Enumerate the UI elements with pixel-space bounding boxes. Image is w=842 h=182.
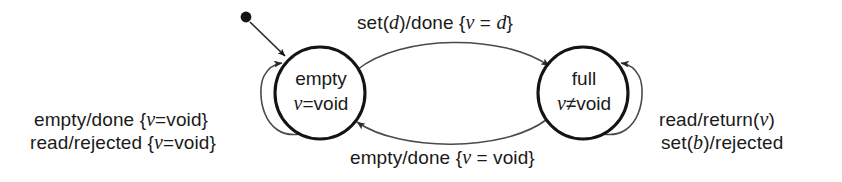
state-label-empty-condition: v=void bbox=[275, 92, 367, 115]
state-empty-cond-rest: =void bbox=[302, 93, 348, 114]
state-label-full-condition: v≠void bbox=[538, 92, 630, 115]
transition-label-empty-self-loop-1: empty/done {v=void} bbox=[34, 108, 208, 131]
transition-label-empty-to-full: set(d)/done {v = d} bbox=[357, 11, 513, 34]
state-machine-diagram: empty v=void full v≠void set(d)/done {v … bbox=[0, 0, 842, 182]
state-label-empty-name: empty bbox=[275, 68, 367, 90]
transition-full-to-empty bbox=[357, 120, 546, 144]
state-label-full-name: full bbox=[538, 68, 630, 90]
initial-transition-arrow bbox=[250, 22, 285, 56]
transition-empty-to-full bbox=[357, 42, 549, 70]
transition-label-full-self-loop-2: set(b)/rejected bbox=[661, 131, 783, 154]
transition-label-empty-self-loop-2: read/rejected {v=void} bbox=[30, 131, 216, 154]
transition-label-full-self-loop-1: read/return(v) bbox=[659, 108, 775, 131]
initial-state-dot bbox=[241, 12, 252, 23]
state-full-var: v bbox=[557, 92, 566, 114]
transition-label-full-to-empty: empty/done {v = void} bbox=[350, 146, 535, 169]
state-full-cond-rest: ≠void bbox=[566, 93, 611, 114]
